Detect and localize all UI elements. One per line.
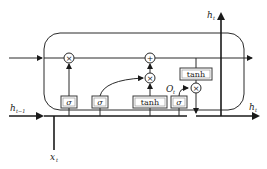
forget-gate: σ	[61, 96, 77, 108]
output-gate: σ	[171, 96, 187, 108]
x-t-subscript: t	[56, 157, 59, 163]
svg-text:×: ×	[66, 54, 73, 63]
input-gate: σ	[92, 96, 108, 108]
output-multiply-op: ×	[191, 83, 201, 93]
h-out-right-label: h	[249, 102, 255, 112]
svg-text:σ: σ	[176, 98, 182, 107]
h-prev-subscript: t−1	[16, 108, 25, 114]
h-out-right-subscript: t	[255, 107, 258, 113]
output-gate-arrow	[179, 88, 188, 96]
h-prev-label: h	[10, 103, 16, 113]
svg-text:σ: σ	[97, 98, 103, 107]
cell-output-tanh: tanh	[180, 68, 212, 80]
svg-text:+: +	[147, 54, 154, 63]
svg-text:σ: σ	[66, 98, 72, 107]
forget-multiply-op: ×	[64, 53, 74, 63]
svg-text:×: ×	[193, 84, 200, 93]
cell-add-op: +	[145, 53, 155, 63]
svg-text:tanh: tanh	[187, 70, 205, 79]
candidate-gate: tanh	[133, 96, 167, 108]
lstm-diagram: × + × σ σ tanh σ O t tanh	[0, 0, 267, 169]
svg-text:×: ×	[147, 74, 154, 83]
h-out-top-label: h	[207, 10, 213, 20]
input-multiply-op: ×	[145, 73, 155, 83]
input-gate-arrow	[100, 78, 143, 96]
x-t-label: x	[50, 152, 55, 162]
svg-text:tanh: tanh	[141, 98, 159, 107]
h-out-top-subscript: t	[213, 15, 216, 21]
o-gate-subscript: t	[173, 89, 176, 95]
